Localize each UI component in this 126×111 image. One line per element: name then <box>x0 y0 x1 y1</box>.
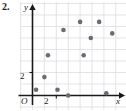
origin-label: O <box>21 97 28 106</box>
scatter-data-point <box>34 87 39 92</box>
scatter-data-point <box>97 20 102 25</box>
scatter-data-point <box>89 36 94 41</box>
y-axis-name-label: y <box>24 3 28 12</box>
scatter-plot-figure: 2. O 2 2 y x <box>0 0 126 111</box>
y-axis-tick-label-2: 2 <box>20 72 25 81</box>
x-axis-name-label: x <box>116 97 120 106</box>
scatter-data-point <box>78 20 83 25</box>
x-axis-tick-label-2: 2 <box>44 97 49 106</box>
plot-area <box>0 0 126 111</box>
scatter-data-point <box>104 91 109 96</box>
scatter-data-point <box>46 53 51 58</box>
scatter-data-point <box>42 75 47 80</box>
data-points <box>0 0 126 111</box>
scatter-data-point <box>81 53 86 58</box>
scatter-data-point <box>66 93 71 98</box>
scatter-data-point <box>110 31 115 36</box>
scatter-data-point <box>61 28 66 33</box>
scatter-data-point <box>55 87 60 92</box>
